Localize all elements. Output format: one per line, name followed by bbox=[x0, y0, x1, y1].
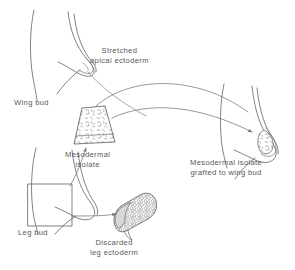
label-graft-line1: Mesodermal isolate bbox=[190, 158, 262, 168]
label-leg-bud: Leg bud bbox=[18, 228, 48, 238]
discarded-leg-ectoderm-block bbox=[114, 193, 157, 240]
wing-bud-body-wall bbox=[30, 10, 37, 100]
grafted-tissue-blob bbox=[258, 130, 273, 154]
label-meso-line1: Mesodermal bbox=[65, 150, 110, 160]
label-stretched-line1: Stretched bbox=[90, 46, 149, 56]
wing-bud-outer-contour bbox=[58, 12, 94, 76]
label-discarded-line1: Discarded bbox=[90, 238, 138, 248]
label-discarded-leg-ectoderm: Discarded leg ectoderm bbox=[90, 238, 138, 258]
wing-bud-upper-left bbox=[30, 10, 96, 100]
label-grafted-to-wing-bud: Mesodermal isolate grafted to wing bud bbox=[190, 158, 262, 178]
label-discarded-line2: leg ectoderm bbox=[90, 248, 138, 258]
apical-ridge-line bbox=[83, 63, 88, 71]
leg-bud-ventral-contour bbox=[55, 216, 76, 234]
label-wing-bud: Wing bud bbox=[14, 98, 49, 108]
wing-bud-ventral-contour bbox=[57, 70, 80, 94]
label-stretched-apical-ectoderm: Stretched apical ectoderm bbox=[90, 46, 149, 66]
label-graft-line2: grafted to wing bud bbox=[190, 168, 262, 178]
label-mesodermal-isolate: Mesodermal isolate bbox=[65, 150, 110, 170]
leg-bud-body-wall bbox=[32, 148, 38, 234]
label-meso-line2: isolate bbox=[65, 160, 110, 170]
label-stretched-line2: apical ectoderm bbox=[90, 56, 149, 66]
arrow-isolate-to-wingbud-upper bbox=[112, 108, 252, 132]
mesodermal-isolate-block bbox=[74, 106, 115, 144]
